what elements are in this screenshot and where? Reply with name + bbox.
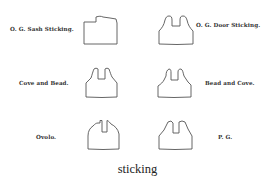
- label-bead-and-cove: Bead and Cove.: [205, 80, 255, 86]
- ovolo-profile-icon: [85, 118, 123, 151]
- bead-and-cove-profile-icon: [156, 66, 194, 99]
- og-sash-sticking-profile: [83, 14, 121, 46]
- label-cove-and-bead: Cove and Bead.: [19, 80, 69, 86]
- og-door-profile-icon: [157, 14, 195, 46]
- label-ovolo: Ovolo.: [36, 134, 56, 140]
- cove-and-bead-profile: [84, 66, 122, 99]
- cove-and-bead-profile-icon: [84, 66, 122, 99]
- ovolo-profile: [85, 118, 123, 151]
- og-sash-profile-icon: [83, 14, 121, 46]
- p-g-profile: [157, 118, 195, 151]
- label-p-g: P. G.: [218, 134, 232, 140]
- og-door-sticking-profile: [157, 14, 195, 46]
- p-g-profile-icon: [157, 118, 195, 151]
- label-og-door-sticking: O. G. Door Sticking.: [196, 22, 260, 28]
- label-og-sash-sticking: O. G. Sash Sticking.: [10, 26, 74, 32]
- figure-caption: sticking: [0, 162, 275, 177]
- bead-and-cove-profile: [156, 66, 194, 99]
